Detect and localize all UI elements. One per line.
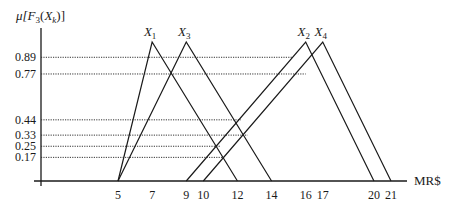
membership-function-chart: μ[F3(Xk)] MR$ 0.890.770.440.330.250.17 5… — [0, 0, 458, 205]
y-tick-label: 0.17 — [15, 150, 36, 164]
x-tick-label: 20 — [368, 188, 380, 202]
series-x3-label: X3 — [177, 24, 191, 41]
series-x2-label: X2 — [296, 24, 309, 41]
x-tick-label: 5 — [115, 188, 121, 202]
y-tick-label: 0.44 — [15, 113, 36, 127]
series-x1-label: X1 — [143, 24, 156, 41]
series-x4-line — [203, 42, 391, 181]
series-lines — [118, 42, 391, 181]
x-tick-labels: 57910121416172021 — [115, 188, 397, 202]
x-tick-label: 17 — [317, 188, 329, 202]
y-tick-labels: 0.890.770.440.330.250.17 — [15, 50, 36, 164]
x-axis-title: MR$ — [414, 173, 441, 188]
x-tick-label: 16 — [300, 188, 312, 202]
series-labels: X1X3X2X4 — [143, 24, 328, 41]
x-tick-label: 14 — [266, 188, 278, 202]
y-tick-label: 0.77 — [15, 67, 36, 81]
y-axis-title: μ[F3(Xk)] — [15, 8, 65, 25]
y-tick-label: 0.89 — [15, 50, 36, 64]
x-tick-label: 21 — [385, 188, 397, 202]
x-tick-label: 12 — [231, 188, 243, 202]
series-x4-label: X4 — [314, 24, 328, 41]
series-x2-line — [186, 42, 374, 181]
x-tick-label: 7 — [149, 188, 155, 202]
series-x1-line — [118, 42, 237, 181]
x-tick-label: 10 — [197, 188, 209, 202]
x-tick-label: 9 — [183, 188, 189, 202]
